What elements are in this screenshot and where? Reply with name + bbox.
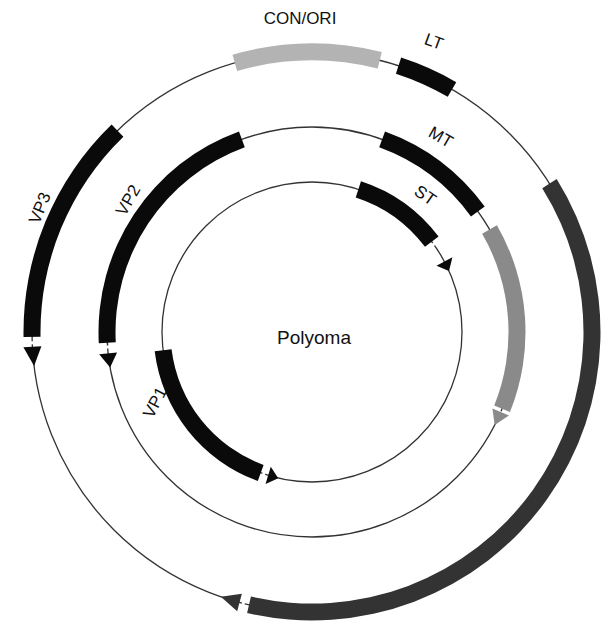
- gene-band-vp2: [99, 131, 245, 343]
- gene-band-lt-exon2: [247, 179, 600, 620]
- arrowhead-icon: [436, 257, 452, 271]
- gene-label-lt: LT: [422, 30, 446, 54]
- gene-gap-vp2: [98, 346, 117, 347]
- label-layer: CON/ORILTVP3VP2MTSTVP1: [25, 9, 456, 421]
- gene-band-mt-exon2: [482, 225, 525, 412]
- gene-gap-vp3: [23, 342, 42, 343]
- gene-band-con-ori: [232, 44, 381, 72]
- gene-label-st: ST: [411, 181, 440, 209]
- gene-band-lt: [396, 58, 456, 97]
- arrowhead-icon: [23, 346, 41, 366]
- arrowhead-icon: [221, 594, 242, 611]
- gene-label-mt: MT: [425, 123, 456, 152]
- genome-title: Polyoma: [277, 327, 351, 348]
- gene-label-con-ori: CON/ORI: [264, 9, 337, 28]
- gene-band-vp1: [155, 349, 264, 481]
- arrowhead-icon: [99, 352, 117, 367]
- polyoma-genome-map: CON/ORILTVP3VP2MTSTVP1 Polyoma: [0, 0, 606, 638]
